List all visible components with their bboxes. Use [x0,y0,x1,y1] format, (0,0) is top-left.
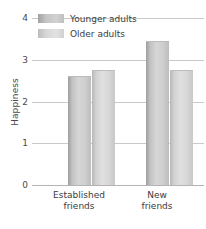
x-axis-category-label: Establishedfriends [34,190,124,212]
y-tick-label: 1 [22,139,28,148]
x-axis-category-line: friends [112,201,202,212]
legend-item-older-adults: Older adults [38,27,137,40]
y-tick-label: 3 [22,55,28,64]
bar [68,76,91,185]
bar [170,70,193,185]
x-axis-category-line: Established [34,190,124,201]
bar [92,70,115,185]
y-tick-label: 4 [22,14,28,23]
legend: Younger adults Older adults [38,12,137,42]
gridline [32,60,204,61]
x-axis-category-line: New [112,190,202,201]
legend-swatch-icon-older [38,29,64,38]
legend-item-younger-adults: Younger adults [38,12,137,25]
legend-label-older: Older adults [70,29,125,39]
bar [146,41,169,185]
happiness-bar-chart: Happiness 01234 EstablishedfriendsNewfri… [0,0,206,229]
gridline [32,185,204,186]
x-axis-category-line: friends [34,201,124,212]
y-axis-title: Happiness [10,54,20,150]
plot-area: 01234 [32,18,204,185]
y-tick-label: 2 [22,97,28,106]
y-tick-label: 0 [22,181,28,190]
x-axis-category-label: Newfriends [112,190,202,212]
legend-swatch-icon-younger [38,14,64,23]
legend-label-younger: Younger adults [70,14,137,24]
